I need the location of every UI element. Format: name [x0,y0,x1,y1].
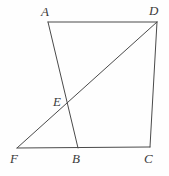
vertex-label-C: C [144,152,153,165]
vertex-label-A: A [41,5,49,18]
vertex-label-E: E [53,95,61,108]
vertex-label-D: D [149,4,158,17]
geometry-canvas [0,0,169,176]
segment-FC [17,147,150,148]
segment-FD [17,22,157,148]
vertex-label-F: F [10,152,18,165]
segment-AB [48,22,78,148]
vertex-label-B: B [72,152,80,165]
segment-DC [150,22,157,147]
geometry-figure: A D E F B C [0,0,169,176]
